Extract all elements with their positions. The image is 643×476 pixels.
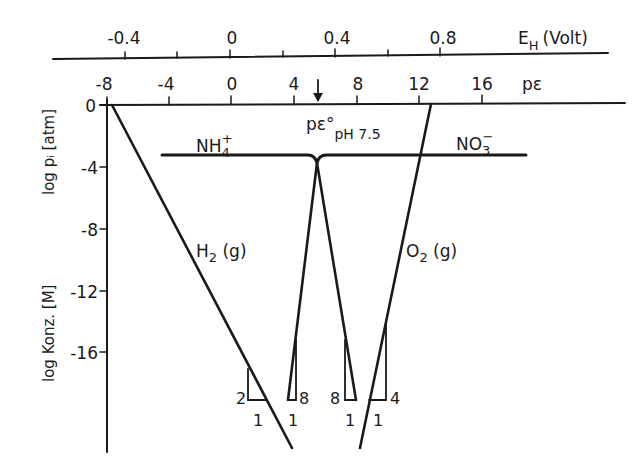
no3-low-branch-line [288, 163, 317, 400]
pe-tick-label: 12 [408, 74, 430, 94]
y-tick-label: -8 [81, 220, 98, 240]
pe-axis-line [100, 103, 625, 105]
y-tick-label: -4 [81, 158, 98, 178]
y-tick-label: -16 [70, 343, 98, 363]
pe-tick-label: 4 [289, 74, 300, 94]
series-lines [112, 104, 526, 448]
y-axis-label-upper: log pᵢ [atm] [40, 109, 58, 195]
nh4-high-branch-line [317, 163, 356, 400]
eh-tick-label: -0.4 [107, 28, 140, 48]
slope-run-label: 1 [345, 411, 355, 430]
slope-rise-label: 4 [390, 389, 400, 408]
eh-tick-label: 0.4 [323, 28, 350, 48]
slope-rise-label: 8 [330, 389, 340, 408]
eh-axis-line [53, 53, 608, 59]
y-tick-label: 0 [85, 96, 96, 116]
eh-tick-label: 0.8 [429, 28, 456, 48]
slope-run-label: 1 [373, 411, 383, 430]
pe-tick-label: 8 [353, 74, 364, 94]
h2-label: H2 (g) [196, 241, 247, 265]
chart: -0.4 0 0.4 0.8 EH(Volt) -8 -4 0 4 8 12 1… [0, 0, 643, 476]
eh-tick-label: 0 [227, 28, 238, 48]
pe-tick-label: 0 [227, 74, 238, 94]
slope-run-label: 1 [253, 411, 263, 430]
slope-run-label: 1 [288, 411, 298, 430]
o2-label: O2 (g) [406, 241, 457, 265]
pe-axis: -8 -4 0 4 8 12 16 pε [96, 74, 625, 105]
y-tick-label: -12 [70, 282, 98, 302]
y-axis-label-lower: log Konz. [M] [40, 285, 58, 382]
pe-tick-label: -4 [158, 74, 175, 94]
y-axis: 0 -4 -8 -12 -16 log pᵢ [atm] log Konz. [… [40, 96, 107, 452]
nh4-no3-plateau-line [162, 155, 526, 163]
nh4-label: NH4+ [196, 131, 233, 160]
series-labels: NH4+ NO3− pε°pH 7.5 H2 (g) O2 (g) [196, 114, 493, 265]
eh-axis-label: EH(Volt) [518, 28, 588, 53]
slope-rise-label: 2 [236, 389, 246, 408]
pe0-arrow-icon [313, 93, 323, 102]
pe0-label: pε°pH 7.5 [306, 114, 381, 142]
no3-label: NO3− [456, 129, 493, 158]
eh-axis: -0.4 0 0.4 0.8 EH(Volt) [53, 28, 608, 59]
slope-rise-label: 8 [299, 389, 309, 408]
pe-tick-label: -8 [96, 74, 113, 94]
pe-axis-label: pε [522, 74, 542, 94]
pe-tick-label: 16 [471, 74, 493, 94]
